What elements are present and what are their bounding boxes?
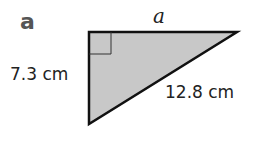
top-side-label: a [153, 4, 165, 28]
left-side-label: 7.3 cm [10, 64, 68, 84]
hypotenuse-label: 12.8 cm [165, 82, 234, 102]
part-label: a [20, 9, 35, 34]
